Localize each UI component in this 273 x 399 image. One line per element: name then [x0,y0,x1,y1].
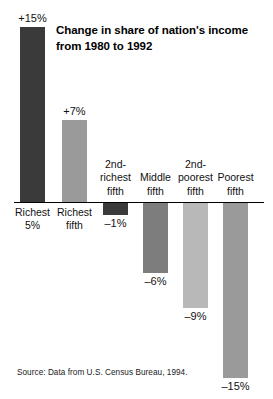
value-label-poorest-fifth: –15% [210,380,261,392]
source-note: Source: Data from U.S. Census Bureau, 19… [17,368,188,377]
value-label-2nd-richest-fifth: –1% [90,217,141,229]
bar-poorest-fifth [223,203,248,378]
category-label-poorest-fifth: Poorest fifth [210,171,261,198]
value-label-richest-fifth: +7% [49,105,100,117]
plot-area: +15%Richest 5%+7%Richest fifth–1%2nd- ri… [0,0,273,370]
bar-middle-fifth [143,203,168,273]
chart-figure: a man are shown. Change in share of nati… [0,0,273,399]
value-label-middle-fifth: –6% [130,275,181,287]
bar-2nd-richest-fifth [103,203,128,215]
value-label-2nd-poorest-fifth: –9% [170,310,221,322]
bar-2nd-poorest-fifth [183,203,208,308]
bar-richest-fifth [62,120,87,202]
bar-richest-5 [20,27,45,202]
value-label-richest-5: +15% [7,12,58,24]
